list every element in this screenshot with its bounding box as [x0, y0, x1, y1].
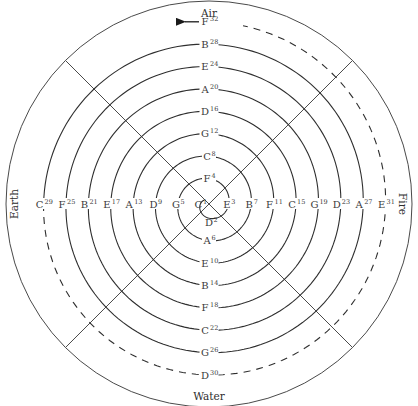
note-label: D16 [200, 105, 219, 117]
note-number: 29 [45, 198, 53, 206]
element-label-top: Air [200, 7, 218, 19]
note-number: 20 [210, 83, 218, 91]
note-number: 13 [134, 198, 142, 206]
note-number: 3 [231, 198, 235, 206]
note-number: 2 [214, 216, 218, 224]
note-name: E [103, 199, 110, 210]
note-number: 26 [210, 346, 218, 354]
element-label-bottom: Water [193, 390, 226, 402]
note-name: B [246, 199, 253, 210]
note-label: B28 [200, 38, 219, 50]
note-number: 15 [297, 198, 305, 206]
note-label: G12 [200, 127, 219, 139]
note-label: C22 [200, 324, 219, 336]
note-name: G [172, 199, 180, 210]
note-name: A [355, 199, 364, 210]
note-name: B [201, 280, 208, 291]
note-label: A27 [354, 198, 373, 210]
element-label-left: Earth [8, 189, 20, 219]
note-label: G19 [309, 198, 328, 210]
note-name: C [288, 199, 296, 210]
note-name: G [201, 128, 209, 139]
note-number: 18 [210, 301, 218, 309]
note-name: F [204, 173, 211, 184]
note-label: F4 [202, 172, 216, 184]
note-label: D30 [200, 369, 219, 381]
note-label: D2 [205, 216, 218, 228]
note-number: 8 [212, 150, 216, 158]
note-label: F11 [264, 198, 283, 210]
note-number: 24 [210, 60, 218, 68]
note-number: 30 [210, 369, 218, 377]
note-label: F25 [57, 198, 76, 210]
note-label: E24 [200, 60, 219, 72]
note-label: G26 [200, 346, 219, 358]
note-name: A [200, 84, 209, 95]
note-number: 19 [319, 198, 327, 206]
note-label: B21 [79, 198, 98, 210]
note-number: 27 [364, 198, 372, 206]
note-number: 28 [210, 38, 218, 46]
element-label-right: Fire [397, 193, 409, 215]
note-name: A [202, 235, 211, 246]
note-name: D [201, 106, 209, 117]
note-name: D [205, 217, 213, 228]
note-label: G5 [171, 198, 185, 210]
note-label: F18 [200, 301, 219, 313]
note-name: A [125, 199, 134, 210]
note-name: G [201, 347, 209, 358]
note-name: G [310, 199, 318, 210]
note-number: 22 [210, 324, 218, 332]
note-name: C [195, 199, 203, 210]
note-name: E [223, 199, 230, 210]
note-label: B7 [244, 198, 258, 210]
note-name: D [333, 199, 341, 210]
note-name: B [201, 39, 208, 50]
note-label: E10 [200, 257, 219, 269]
note-label: C15 [287, 198, 306, 210]
note-number: 6 [212, 234, 216, 242]
note-number: 14 [210, 279, 218, 287]
note-name: C [36, 199, 44, 210]
note-label: A6 [202, 234, 216, 246]
note-number: 23 [342, 198, 350, 206]
note-number: 5 [181, 198, 185, 206]
note-number: 21 [89, 198, 97, 206]
note-number: 9 [158, 198, 162, 206]
note-name: E [201, 258, 208, 269]
note-label: A20 [200, 83, 219, 95]
note-name: E [201, 61, 208, 72]
note-number: 11 [275, 198, 283, 206]
note-name: E [378, 199, 385, 210]
note-label: D9 [149, 198, 163, 210]
note-number: 1 [203, 198, 207, 206]
note-name: C [203, 151, 211, 162]
note-label: C8 [202, 150, 216, 162]
note-number: 25 [67, 198, 75, 206]
note-number: 4 [212, 172, 216, 180]
note-number: 16 [210, 105, 218, 113]
note-label: E3 [222, 198, 236, 210]
note-name: F [266, 199, 273, 210]
note-name: D [150, 199, 158, 210]
note-name: B [81, 199, 88, 210]
note-number: 10 [210, 257, 218, 265]
note-number: 17 [112, 198, 120, 206]
note-label: C29 [34, 198, 53, 210]
note-name: F [59, 199, 66, 210]
note-number: 7 [254, 198, 258, 206]
note-name: C [201, 325, 209, 336]
note-name: D [201, 370, 209, 381]
note-label: E17 [101, 198, 120, 210]
note-number: 31 [387, 198, 395, 206]
note-number: 12 [210, 127, 218, 135]
note-label: E31 [376, 198, 395, 210]
note-label: B14 [200, 279, 219, 291]
note-name: F [202, 302, 209, 313]
note-label: D23 [331, 198, 350, 210]
note-label: A13 [124, 198, 143, 210]
spiral-diagram: C1D2E3F4G5A6B7C8D9E10F11G12A13B14C15D16E… [0, 0, 418, 406]
